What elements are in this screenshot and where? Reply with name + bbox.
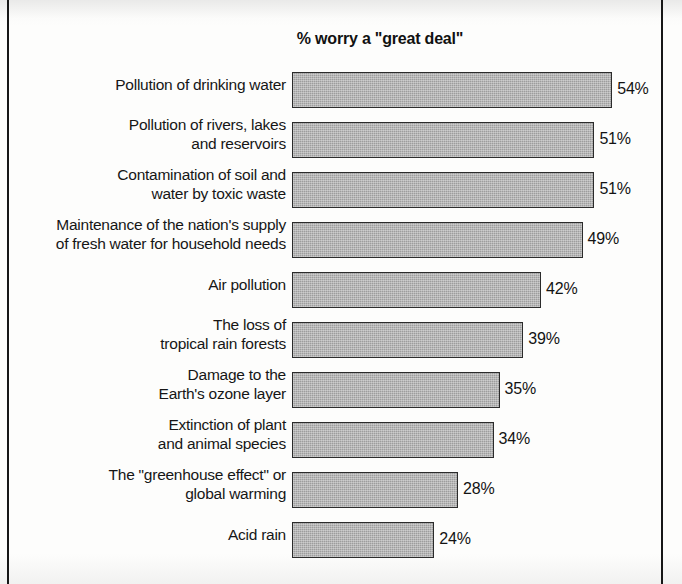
- bar-row: Maintenance of the nation's supply of fr…: [0, 216, 682, 266]
- chart-title-text: % worry a "great deal": [297, 30, 463, 48]
- bar-row: Pollution of rivers, lakes and reservoir…: [0, 116, 682, 166]
- bar: [292, 72, 612, 108]
- bar-value-label: 35%: [505, 379, 536, 399]
- bar: [292, 322, 523, 358]
- bar-value-label: 28%: [463, 479, 494, 499]
- bar: [292, 222, 583, 258]
- bar-category-label: Pollution of rivers, lakes and reservoir…: [8, 115, 286, 153]
- chart-title: % worry a "great deal": [0, 30, 682, 48]
- bar-value-label: 49%: [588, 229, 619, 249]
- bar: [292, 272, 541, 308]
- bar: [292, 522, 434, 558]
- bar: [292, 372, 500, 408]
- bar-category-label: The "greenhouse effect" or global warmin…: [8, 465, 286, 503]
- bar-category-label: Acid rain: [8, 525, 286, 544]
- bar-row: Damage to the Earth's ozone layer 35%: [0, 366, 682, 416]
- bar-value-label: 54%: [617, 79, 648, 99]
- bar-category-label: Air pollution: [8, 275, 286, 294]
- bar-value-label: 24%: [439, 529, 470, 549]
- bar: [292, 472, 458, 508]
- bar-row: Air pollution 42%: [0, 266, 682, 316]
- bar: [292, 422, 494, 458]
- bar-category-label: Pollution of drinking water: [8, 75, 286, 94]
- bar-chart-plot-area: Pollution of drinking water 54% Pollutio…: [0, 66, 682, 566]
- bar-row: Contamination of soil and water by toxic…: [0, 166, 682, 216]
- bar-row: The "greenhouse effect" or global warmin…: [0, 466, 682, 516]
- bar-category-label: The loss of tropical rain forests: [8, 315, 286, 353]
- bar-value-label: 51%: [599, 129, 630, 149]
- bar: [292, 122, 594, 158]
- bar-row: Extinction of plant and animal species 3…: [0, 416, 682, 466]
- bar-row: Acid rain 24%: [0, 516, 682, 566]
- bar-category-label: Maintenance of the nation's supply of fr…: [8, 215, 286, 253]
- bar-row: The loss of tropical rain forests 39%: [0, 316, 682, 366]
- bar-value-label: 39%: [528, 329, 559, 349]
- bar: [292, 172, 594, 208]
- bar-category-label: Damage to the Earth's ozone layer: [8, 365, 286, 403]
- scan-artifact-top: [0, 0, 682, 26]
- bar-category-label: Extinction of plant and animal species: [8, 415, 286, 453]
- bar-category-label: Contamination of soil and water by toxic…: [8, 165, 286, 203]
- bar-row: Pollution of drinking water 54%: [0, 66, 682, 116]
- bar-value-label: 42%: [546, 279, 577, 299]
- bar-value-label: 34%: [499, 429, 530, 449]
- chart-figure: % worry a "great deal" Pollution of drin…: [0, 0, 682, 584]
- bar-value-label: 51%: [599, 179, 630, 199]
